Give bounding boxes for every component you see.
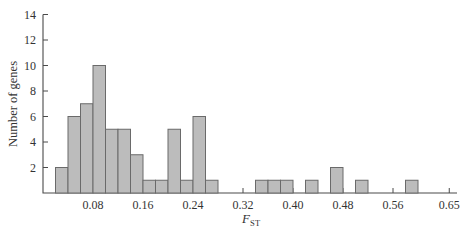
- histogram-bar: [118, 129, 131, 193]
- x-tick-label: 0.48: [333, 198, 354, 212]
- histogram-bar: [93, 66, 106, 194]
- x-tick-label: 0.08: [83, 198, 104, 212]
- x-tick-label: 0.65: [439, 198, 460, 212]
- histogram-chart: 24681012140.080.160.240.320.400.480.560.…: [0, 0, 468, 234]
- x-axis-label: FST: [242, 211, 260, 227]
- x-tick-label: 0.56: [383, 198, 404, 212]
- histogram-bar: [168, 129, 181, 193]
- y-tick-label: 12: [24, 33, 36, 47]
- histogram-bar: [181, 180, 194, 193]
- histogram-bar: [331, 168, 344, 194]
- histogram-bar: [406, 180, 419, 193]
- histogram-bar: [268, 180, 281, 193]
- y-tick-label: 4: [30, 135, 36, 149]
- histogram-bar: [56, 168, 69, 194]
- y-tick-label: 14: [24, 8, 36, 22]
- histogram-bar: [206, 180, 219, 193]
- x-tick-label: 0.32: [233, 198, 254, 212]
- histogram-bars: [56, 66, 419, 194]
- histogram-bar: [106, 129, 119, 193]
- x-tick-label: 0.40: [283, 198, 304, 212]
- x-axis-label-variable: F: [242, 211, 250, 226]
- histogram-bar: [143, 180, 156, 193]
- y-axis: 2468101214: [24, 8, 48, 175]
- y-tick-label: 10: [24, 59, 36, 73]
- histogram-bar: [281, 180, 294, 193]
- x-tick-label: 0.24: [183, 198, 204, 212]
- histogram-bar: [156, 180, 169, 193]
- histogram-bar: [256, 180, 269, 193]
- y-tick-label: 6: [30, 110, 36, 124]
- x-tick-label: 0.16: [133, 198, 154, 212]
- histogram-bar: [356, 180, 369, 193]
- fst-histogram-figure: 24681012140.080.160.240.320.400.480.560.…: [0, 0, 468, 234]
- histogram-bar: [68, 117, 81, 194]
- y-axis-label: Number of genes: [6, 61, 21, 147]
- histogram-bar: [306, 180, 319, 193]
- x-axis-label-subscript: ST: [250, 218, 261, 228]
- y-tick-label: 8: [30, 84, 36, 98]
- histogram-bar: [81, 104, 94, 193]
- histogram-bar: [131, 155, 144, 193]
- histogram-bar: [193, 117, 206, 194]
- y-tick-label: 2: [30, 161, 36, 175]
